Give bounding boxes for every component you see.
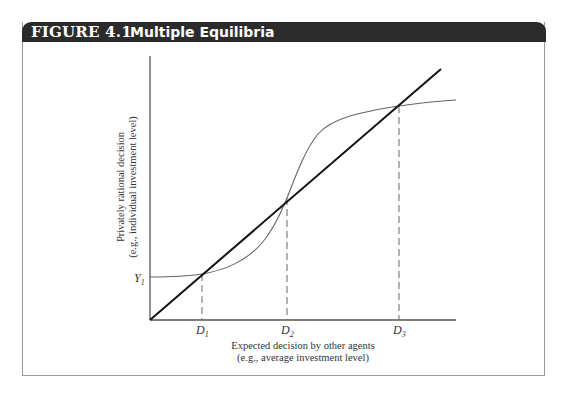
d1-label: D1 <box>195 323 209 339</box>
y-axis-title: Privately rational decision <box>115 131 126 242</box>
chart: Y1 D1 D2 D3 Expected decision by other a… <box>0 0 569 397</box>
x-axis-subtitle: (e.g., average investment level) <box>237 352 369 364</box>
line-45-degree <box>150 69 441 320</box>
x-axis-title: Expected decision by other agents <box>231 340 374 351</box>
d2-label: D2 <box>280 323 294 339</box>
d3-label: D3 <box>392 323 406 339</box>
y-axis-subtitle: (e.g., individual investment level) <box>127 116 139 258</box>
y1-label: Y1 <box>134 271 145 287</box>
